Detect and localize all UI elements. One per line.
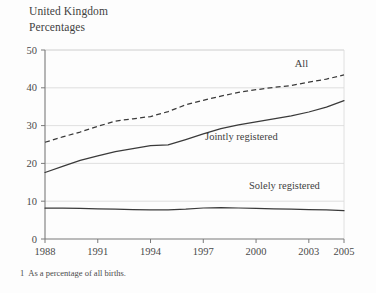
x-axis-tick-label: 2000 [246, 246, 267, 257]
gridlines-group [45, 50, 344, 239]
y-axis-labels-group: 01020304050 [27, 45, 38, 245]
y-axis-tick-label: 30 [27, 120, 38, 131]
y-axis-tick-label: 50 [27, 45, 38, 56]
x-axis-tick-label: 2005 [334, 246, 355, 257]
footnote: 1As a percentage of all births. [20, 268, 126, 278]
chart-region-title: United Kingdom [29, 5, 108, 17]
y-axis-ticks-group [41, 50, 45, 239]
y-axis-tick-label: 20 [27, 158, 38, 169]
line-chart-plot: 01020304050 1988199119941997200020032005… [0, 0, 376, 262]
chart-figure: United Kingdom Percentages 01020304050 1… [0, 0, 376, 293]
series-label: Solely registered [249, 180, 321, 191]
series-annotations-group: AllJointly registeredSolely registered [205, 58, 321, 191]
y-axis-tick-label: 0 [32, 234, 37, 245]
chart-units-subtitle: Percentages [29, 21, 85, 33]
x-axis-tick-label: 1988 [35, 246, 56, 257]
y-axis-tick-label: 40 [27, 82, 38, 93]
y-axis-tick-label: 10 [27, 196, 38, 207]
x-axis-tick-label: 1991 [87, 246, 108, 257]
footnote-marker: 1 [20, 268, 24, 278]
series-label: Jointly registered [205, 131, 278, 142]
x-axis-ticks-group [45, 239, 344, 243]
x-axis-tick-label: 2003 [298, 246, 319, 257]
series-label: All [295, 58, 309, 69]
x-axis-labels-group: 1988199119941997200020032005 [35, 246, 355, 257]
x-axis-tick-label: 1997 [193, 246, 214, 257]
series-line [45, 101, 344, 173]
series-line [45, 75, 344, 142]
series-line [45, 208, 344, 211]
footnote-text: As a percentage of all births. [28, 268, 126, 278]
x-axis-tick-label: 1994 [140, 246, 162, 257]
